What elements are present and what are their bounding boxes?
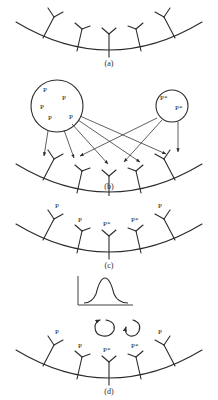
receptor [155,150,175,180]
emission-symbols [95,320,140,336]
receptor [43,336,63,366]
panel-b: P P P P P P* P* (b) [0,76,218,196]
ligand-molecule-P: P [43,86,47,94]
spectrum-inset: λmax=560nm [0,272,218,312]
spectrum-drawing [0,272,218,312]
receptor [43,8,63,38]
receptor [43,150,63,180]
absorption-peak-curve [84,278,128,303]
ligand-vesicle-left [31,80,83,132]
ligand-molecule-Pstar: P* [175,104,182,112]
bound-ligand-label: P* [131,342,138,350]
panel-a: (a) [0,0,218,72]
receptor [102,28,116,57]
ligand-molecule-Pstar: P* [160,94,167,102]
receptor [102,230,116,259]
ligand-molecule-P: P [69,113,73,121]
receptor [102,356,116,385]
binding-arrows [44,116,178,164]
receptor [155,210,175,240]
emission-curved-arrow [95,320,114,336]
panel-b-label: (b) [0,182,218,191]
bound-ligand-label: P [158,202,162,210]
bound-ligand-label: P* [131,216,138,224]
panel-c-label: (c) [0,261,218,270]
spectrum-axes [78,276,133,305]
bound-ligand-label: P [78,342,82,350]
bound-ligand-label: P* [103,346,110,354]
emission-curved-arrow [126,320,140,336]
figure-root: (a) [0,0,218,400]
ligand-molecule-P: P [48,114,52,122]
panel-c: P P P* P* P (c) [0,202,218,274]
panel-d: P P P* P* P (d) [0,316,218,400]
bound-ligand-label: P [78,216,82,224]
panel-a-label: (a) [0,59,218,68]
ligand-molecule-P: P [40,103,44,111]
bound-ligand-label: P [55,328,59,336]
panel-b-drawing [0,76,218,196]
receptor [43,210,63,240]
receptor [155,8,175,38]
ligand-molecule-P: P [62,94,66,102]
bound-ligand-label: P [55,202,59,210]
receptor [155,336,175,366]
bound-ligand-label: P* [103,220,110,228]
panel-d-label: (d) [0,387,218,396]
bound-ligand-label: P [158,328,162,336]
